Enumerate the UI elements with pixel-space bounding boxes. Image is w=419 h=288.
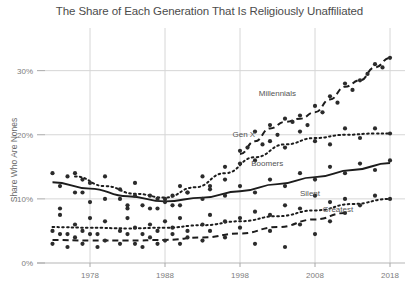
series-datapoints <box>50 56 392 249</box>
datapoint <box>88 216 92 220</box>
datapoint <box>88 200 92 204</box>
datapoint <box>223 165 227 169</box>
datapoint <box>238 226 242 230</box>
x-tick-label: 2008 <box>306 271 324 280</box>
datapoint <box>50 229 54 233</box>
datapoint <box>253 190 257 194</box>
datapoint <box>350 88 354 92</box>
datapoint <box>170 226 174 230</box>
datapoint <box>388 158 392 162</box>
datapoint <box>283 117 287 121</box>
datapoint <box>388 197 392 201</box>
datapoint <box>155 242 159 246</box>
datapoint <box>88 181 92 185</box>
datapoint <box>58 184 62 188</box>
datapoint <box>283 146 287 150</box>
datapoint <box>58 206 62 210</box>
datapoint <box>208 213 212 217</box>
datapoint <box>133 226 137 230</box>
datapoint <box>103 197 107 201</box>
datapoint <box>298 171 302 175</box>
datapoint <box>80 178 84 182</box>
datapoint <box>80 242 84 246</box>
datapoint <box>103 219 107 223</box>
series-label-gen-x: Gen X <box>233 130 256 139</box>
datapoint <box>155 229 159 233</box>
datapoint <box>373 62 377 66</box>
chart-plot-area: 0%10%20%30% 19781988199820082018 Millenn… <box>0 0 419 288</box>
datapoint <box>88 232 92 236</box>
datapoint <box>200 174 204 178</box>
datapoint <box>268 123 272 127</box>
datapoint <box>313 178 317 182</box>
datapoint <box>290 120 294 124</box>
datapoint <box>125 203 129 207</box>
datapoint <box>358 203 362 207</box>
datapoint <box>163 219 167 223</box>
datapoint <box>118 242 122 246</box>
series-label-silent: Silent <box>300 189 321 198</box>
datapoint <box>118 229 122 233</box>
series-annotations: MillennialsGen XBoomersSilentGreatest <box>233 89 354 213</box>
datapoint <box>163 200 167 204</box>
gridlines <box>45 28 405 263</box>
datapoint <box>65 245 69 249</box>
datapoint <box>200 222 204 226</box>
datapoint <box>163 239 167 243</box>
datapoint <box>58 213 62 217</box>
datapoint <box>125 232 129 236</box>
datapoint <box>283 203 287 207</box>
x-tick-label: 1978 <box>81 271 99 280</box>
datapoint <box>208 229 212 233</box>
datapoint <box>223 219 227 223</box>
datapoint <box>238 216 242 220</box>
datapoint <box>73 190 77 194</box>
datapoint <box>73 222 77 226</box>
datapoint <box>313 232 317 236</box>
datapoint <box>313 104 317 108</box>
datapoint <box>223 178 227 182</box>
datapoint <box>358 162 362 166</box>
datapoint <box>178 216 182 220</box>
datapoint <box>178 203 182 207</box>
datapoint <box>65 232 69 236</box>
datapoint <box>328 219 332 223</box>
datapoint <box>200 239 204 243</box>
datapoint <box>50 171 54 175</box>
datapoint <box>185 235 189 239</box>
datapoint <box>58 232 62 236</box>
y-tick-label: 20% <box>17 131 33 140</box>
y-tick-label: 30% <box>17 67 33 76</box>
datapoint <box>140 232 144 236</box>
datapoint <box>238 162 242 166</box>
datapoint <box>148 206 152 210</box>
datapoint <box>155 206 159 210</box>
datapoint <box>388 56 392 60</box>
datapoint <box>118 187 122 191</box>
datapoint <box>148 235 152 239</box>
trendline-gen-x <box>75 134 390 198</box>
datapoint <box>320 110 324 114</box>
datapoint <box>328 142 332 146</box>
datapoint <box>298 113 302 117</box>
datapoint <box>223 235 227 239</box>
datapoint <box>283 184 287 188</box>
datapoint <box>328 94 332 98</box>
datapoint <box>298 206 302 210</box>
y-tick-label: 0% <box>21 259 33 268</box>
series-label-boomers: Boomers <box>251 159 283 168</box>
datapoint <box>238 149 242 153</box>
datapoint <box>388 131 392 135</box>
datapoint <box>343 171 347 175</box>
datapoint <box>373 126 377 130</box>
datapoint <box>140 245 144 249</box>
datapoint <box>275 133 279 137</box>
datapoint <box>358 136 362 140</box>
datapoint <box>73 235 77 239</box>
trendline-boomers <box>53 163 391 201</box>
y-axis-tick-labels: 0%10%20%30% <box>17 67 33 268</box>
datapoint <box>73 171 77 175</box>
datapoint <box>313 139 317 143</box>
datapoint <box>95 245 99 249</box>
y-tick-label: 10% <box>17 195 33 204</box>
